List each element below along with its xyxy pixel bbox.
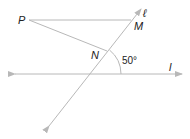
geometry-diagram: P M N ℓ l 50°: [0, 0, 190, 139]
label-line-l: l: [169, 61, 172, 73]
label-angle: 50°: [122, 55, 137, 66]
label-line-ell: ℓ: [142, 7, 147, 19]
angle-arc: [110, 50, 122, 74]
segment-pn: [29, 20, 107, 51]
label-m: M: [134, 20, 144, 32]
label-n: N: [91, 49, 99, 61]
label-p: P: [18, 14, 26, 26]
line-ell: [49, 9, 141, 126]
